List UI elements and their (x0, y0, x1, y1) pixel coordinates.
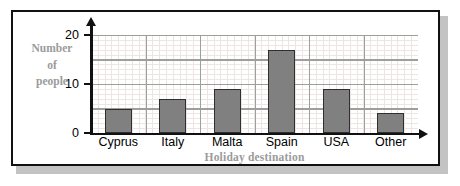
y-tick-10 (84, 83, 92, 85)
chart-figure: 01020 CyprusItalyMaltaSpainUSAOther Numb… (0, 0, 460, 186)
x-tick-label-other: Other (364, 136, 419, 149)
plot-area (91, 35, 418, 133)
x-axis-line (90, 133, 421, 136)
arrow-up-icon (86, 17, 96, 26)
y-tick-20 (84, 34, 92, 36)
bars-layer (91, 35, 418, 133)
y-axis-line (90, 24, 93, 134)
x-tick-label-cyprus: Cyprus (91, 136, 146, 149)
bar-malta (214, 89, 241, 133)
y-axis-title-line-1: Number (19, 40, 85, 57)
y-axis-title: Numberofpeople (19, 40, 85, 90)
x-tick-label-spain: Spain (255, 136, 310, 149)
figure-frame: 01020 CyprusItalyMaltaSpainUSAOther Numb… (11, 10, 440, 166)
x-tick-label-malta: Malta (200, 136, 255, 149)
bar-other (377, 113, 404, 133)
x-axis-title: Holiday destination (91, 151, 418, 163)
bar-cyprus (105, 109, 132, 134)
y-tick-0 (84, 132, 92, 134)
x-tick-label-italy: Italy (146, 136, 201, 149)
y-tick-label-0: 0 (45, 127, 79, 140)
y-axis-title-line-3: people (19, 73, 85, 90)
x-tick-label-usa: USA (309, 136, 364, 149)
y-axis-title-line-2: of (19, 57, 85, 74)
arrow-right-icon (419, 129, 428, 139)
bar-italy (159, 99, 186, 133)
chart-canvas: 01020 CyprusItalyMaltaSpainUSAOther Numb… (13, 12, 442, 168)
bar-usa (323, 89, 350, 133)
bar-spain (268, 50, 295, 133)
